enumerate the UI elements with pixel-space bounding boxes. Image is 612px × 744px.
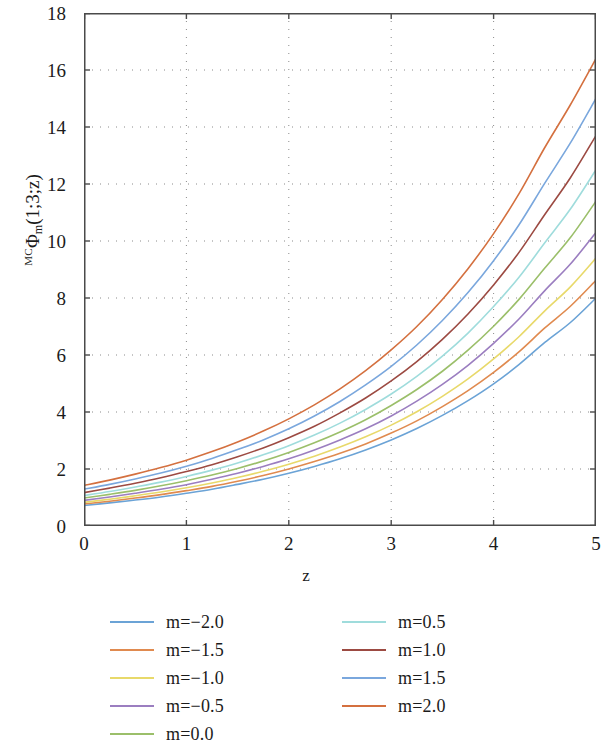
- legend-entry[interactable]: m=−0.5: [110, 692, 342, 720]
- x-axis-tick-labels: 012345: [0, 534, 612, 564]
- legend-entry[interactable]: m=−1.5: [110, 636, 342, 664]
- legend-label: m=−1.5: [166, 641, 224, 659]
- legend-label: m=1.5: [398, 669, 446, 687]
- legend-label: m=−2.0: [166, 613, 224, 631]
- legend-color-swatch: [110, 705, 154, 707]
- legend-color-swatch: [110, 733, 154, 735]
- x-axis-title-text: z: [302, 566, 310, 585]
- y-axis-title: MCΦm(1;3;z): [23, 174, 44, 266]
- legend-entry[interactable]: m=1.5: [342, 664, 574, 692]
- y-tick-label: 8: [57, 289, 67, 308]
- y-tick-label: 2: [57, 460, 67, 479]
- plot-svg: [84, 13, 596, 526]
- legend-entry[interactable]: m=−2.0: [110, 608, 342, 636]
- y-tick-label: 4: [57, 403, 67, 422]
- x-axis-title: z: [0, 566, 612, 586]
- legend-entry[interactable]: m=0.5: [342, 608, 574, 636]
- legend-label: m=0.5: [398, 613, 446, 631]
- curve-mneg10: [84, 258, 596, 502]
- legend-entry[interactable]: m=2.0: [342, 692, 574, 720]
- y-axis-title-arguments: (1;3;z): [22, 174, 43, 225]
- x-tick-label: 1: [182, 534, 192, 553]
- axis-ticks: [84, 13, 596, 526]
- y-axis-title-presuperscript: MC: [23, 248, 35, 266]
- curve-m20: [84, 59, 596, 486]
- legend-label: m=2.0: [398, 697, 446, 715]
- legend-color-swatch: [110, 677, 154, 679]
- curve-group: [84, 59, 596, 506]
- legend-color-swatch: [342, 677, 386, 679]
- legend-color-swatch: [342, 621, 386, 623]
- x-tick-label: 3: [386, 534, 396, 553]
- y-axis-title-symbol: Φ: [22, 234, 43, 248]
- legend-label: m=1.0: [398, 641, 446, 659]
- y-tick-label: 0: [57, 517, 67, 536]
- legend-color-swatch: [110, 621, 154, 623]
- legend-label: m=−1.0: [166, 669, 224, 687]
- legend-color-swatch: [342, 649, 386, 651]
- legend-color-swatch: [342, 705, 386, 707]
- curve-mneg15: [84, 280, 596, 504]
- gridlines: [84, 13, 596, 526]
- y-axis-title-wrapper: MCΦm(1;3;z): [14, 70, 54, 370]
- curve-m15: [84, 99, 596, 490]
- legend-label: m=−0.5: [166, 697, 224, 715]
- y-tick-label: 18: [47, 4, 66, 23]
- plot-area: [84, 13, 596, 526]
- legend-color-swatch: [110, 649, 154, 651]
- legend-entry[interactable]: m=1.0: [342, 636, 574, 664]
- legend-label: m=0.0: [166, 725, 214, 743]
- plot-frame: [85, 14, 596, 526]
- y-tick-label: 6: [57, 346, 67, 365]
- legend-entry[interactable]: m=0.0: [110, 720, 342, 744]
- x-tick-label: 4: [489, 534, 499, 553]
- x-tick-label: 5: [591, 534, 601, 553]
- x-tick-label: 0: [79, 534, 89, 553]
- legend: m=−2.0m=−1.5m=−1.0m=−0.5m=0.0m=0.5m=1.0m…: [110, 608, 570, 744]
- curve-mneg05: [84, 232, 596, 500]
- legend-entry[interactable]: m=−1.0: [110, 664, 342, 692]
- x-tick-label: 2: [284, 534, 294, 553]
- y-axis-title-subscript: m: [32, 225, 46, 234]
